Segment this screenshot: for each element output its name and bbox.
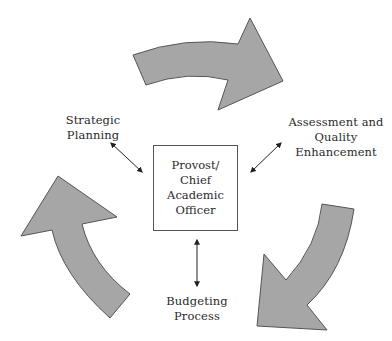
node-assessment-line: Quality xyxy=(286,130,386,145)
center-line: Academic xyxy=(167,188,224,203)
center-box-provost: Provost/ Chief Academic Officer xyxy=(153,145,238,231)
node-strategic-planning: Strategic Planning xyxy=(38,113,148,143)
node-assessment: Assessment and Quality Enhancement xyxy=(286,115,386,160)
node-assessment-line: Assessment and xyxy=(286,115,386,130)
center-line: Provost/ xyxy=(172,158,220,173)
node-budgeting-line: Process xyxy=(160,309,234,324)
center-line: Chief xyxy=(180,173,211,188)
node-budgeting-line: Budgeting xyxy=(160,294,234,309)
connector-assessment xyxy=(251,143,281,172)
cycle-arrow-top xyxy=(133,18,283,110)
cycle-arrow-right xyxy=(257,204,354,330)
cycle-arrow-left xyxy=(21,176,130,318)
node-budgeting: Budgeting Process xyxy=(160,294,234,324)
node-assessment-line: Enhancement xyxy=(286,145,386,160)
center-line: Officer xyxy=(175,203,215,218)
connector-strategic xyxy=(111,143,142,172)
